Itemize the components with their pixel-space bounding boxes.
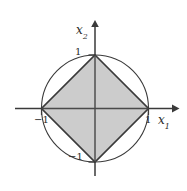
figure-root: x2 x1 1 1 −1 −1 — [0, 0, 187, 191]
y-axis-label: x2 — [76, 24, 88, 39]
x-axis-label-subscript: 1 — [165, 122, 170, 131]
tick-label-y-negative-one: −1 — [68, 152, 83, 162]
tick-label-x-positive-one: 1 — [145, 115, 151, 125]
plot-canvas — [0, 0, 187, 191]
y-axis-label-subscript: 2 — [83, 32, 88, 41]
x-axis-label-base: x — [158, 113, 165, 127]
x1-axis-arrowhead — [172, 105, 180, 113]
tick-label-y-positive-one: 1 — [75, 47, 81, 57]
y-axis-label-base: x — [76, 23, 83, 37]
x-axis-label: x1 — [158, 114, 170, 129]
x2-axis-arrowhead — [91, 20, 99, 27]
tick-label-x-negative-one: −1 — [34, 115, 49, 125]
